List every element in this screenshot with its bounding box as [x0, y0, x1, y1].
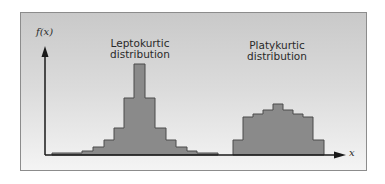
y-axis-arrow-icon [42, 46, 49, 57]
histogram-bars [52, 64, 218, 155]
leptokurtic-label-line2: distribution [95, 49, 185, 60]
platykurtic-label: Platykurtic distribution [232, 40, 322, 62]
platykurtic-histogram [233, 104, 324, 155]
platykurtic-label-line2: distribution [232, 51, 322, 62]
x-axis-arrow-icon [334, 152, 346, 159]
histogram-plot [0, 0, 385, 184]
x-axis-label: x [349, 147, 355, 158]
leptokurtic-label: Leptokurtic distribution [95, 38, 185, 60]
y-axis-label: f(x) [36, 26, 53, 37]
leptokurtic-histogram [52, 64, 218, 155]
histogram-bars [233, 104, 324, 155]
